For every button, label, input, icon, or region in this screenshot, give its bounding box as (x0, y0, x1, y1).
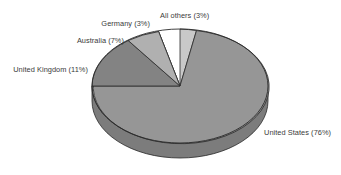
slice-label-united-kingdom: United Kingdom (11%) (6, 65, 88, 74)
slice-label-germany: Germany (3%) (85, 19, 150, 28)
slice-label-all-others: All others (3%) (160, 11, 209, 20)
slice-label-united-states: United States (76%) (264, 128, 331, 137)
pie-chart-svg (0, 0, 341, 175)
pie-chart-figure: All others (3%) Germany (3%) Australia (… (0, 0, 341, 175)
slice-label-australia: Australia (7%) (55, 36, 124, 45)
